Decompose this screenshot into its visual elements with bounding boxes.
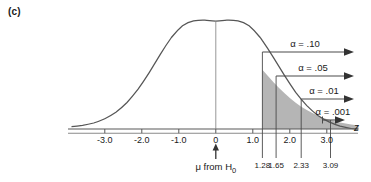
mu-from-h0-label: μ from H0 xyxy=(195,161,236,175)
mu-from-h0-subscript: 0 xyxy=(232,166,236,175)
x-tick-label: 2.0 xyxy=(284,135,297,145)
alpha-01-arrow xyxy=(301,95,354,102)
figure-panel-c: (c) xyxy=(0,0,371,182)
z-axis-label: z xyxy=(354,122,359,133)
alpha-label-05: α = .05 xyxy=(298,62,328,73)
x-tick-label: 1.0 xyxy=(247,135,260,145)
x-tick-label: -3.0 xyxy=(97,135,113,145)
alpha-05-arrow xyxy=(276,72,354,79)
x-tick-label: 3.0 xyxy=(321,135,334,145)
axis-ticks xyxy=(105,129,327,133)
alpha-label-10: α = .10 xyxy=(290,38,320,49)
alpha-10-arrow xyxy=(262,48,354,55)
mu-from-h0-text: μ from H xyxy=(195,161,232,172)
alpha-label-001: α = .001 xyxy=(316,106,351,117)
x-tick-label: -2.0 xyxy=(134,135,150,145)
x-tick-label: -1.0 xyxy=(171,135,187,145)
critical-value-label-3-09: 3.09 xyxy=(323,161,339,170)
critical-value-label-2-33: 2.33 xyxy=(293,161,309,170)
x-tick-label: 0 xyxy=(213,135,218,145)
mu-marker-arrow xyxy=(213,144,219,160)
critical-value-label-1-65: 1.65 xyxy=(268,161,284,170)
alpha-label-01: α = .01 xyxy=(309,85,339,96)
